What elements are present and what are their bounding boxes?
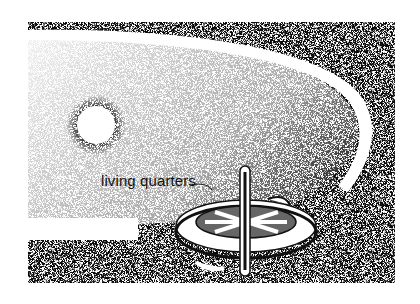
- sun: [77, 106, 115, 144]
- living-quarters-label: living quarters: [101, 172, 196, 189]
- lower-band: [28, 218, 138, 240]
- space-habitat-illustration: [0, 0, 420, 304]
